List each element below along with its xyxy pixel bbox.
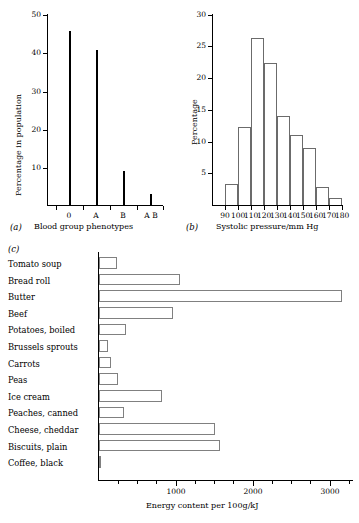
chart-c-bar-tomato-soup (99, 257, 117, 269)
chart-c-bar-beef (99, 307, 173, 319)
chart-b-plot-area (212, 14, 343, 205)
chart-c-xtick-minor (118, 481, 119, 484)
table-row (99, 321, 354, 338)
chart-a-ytick-label: 10 (27, 164, 41, 172)
chart-c-label: Potatoes, boiled (8, 322, 100, 339)
chart-b-bin-90-100 (225, 184, 238, 205)
chart-a-xtick-label: B (114, 212, 132, 220)
chart-c-xtick-minor (291, 481, 292, 484)
chart-a-ytick-label: 40 (27, 49, 41, 57)
chart-b-xtick-label: 90 (218, 212, 232, 220)
chart-c-bar-carrots (99, 357, 111, 369)
chart-b-xtick (316, 206, 317, 210)
chart-c-x-axis-title: Energy content per 100g/kJ (146, 501, 258, 510)
panel-letter-a: (a) (10, 222, 22, 232)
chart-c-label: Coffee, black (8, 455, 100, 472)
chart-a-ytick-label: 50 (27, 11, 41, 19)
chart-c-label: Ice cream (8, 389, 100, 406)
chart-c-xtick-label: 1000 (163, 488, 189, 496)
chart-b-bin-150-160 (303, 148, 316, 205)
chart-c-xtick-minor (214, 481, 215, 484)
chart-b-bin-140-150 (290, 135, 303, 205)
table-row (99, 454, 354, 471)
chart-c-label: Carrots (8, 356, 100, 373)
chart-c-xtick-minor (137, 481, 138, 484)
table-row (99, 272, 354, 289)
chart-a-bar-A (96, 50, 98, 205)
chart-c-category-labels: Tomato soup Bread roll Butter Beef Potat… (8, 256, 100, 472)
chart-a-xtick (110, 206, 111, 210)
chart-b-xtick-label: 130 (270, 212, 284, 220)
chart-c-bar-biscuits-plain (99, 440, 220, 452)
chart-c-label: Bread roll (8, 273, 100, 290)
chart-b-ytick-label: 20 (192, 74, 206, 82)
chart-a-plot-area (47, 14, 163, 205)
chart-a-xtick (137, 206, 138, 210)
chart-a-xtick-label: 0 (60, 212, 78, 220)
chart-c-xtick-minor (195, 481, 196, 484)
chart-c-xtick-major (330, 481, 331, 486)
table-row (99, 371, 354, 388)
table-row (99, 288, 354, 305)
chart-b-xtick (264, 206, 265, 210)
chart-c-bar-bread-roll (99, 274, 180, 286)
chart-a-bar-0 (69, 31, 71, 205)
chart-a-bar-B (123, 171, 125, 205)
chart-energy-content-foods: (c) Tomato soup Bread roll Butter Beef P… (0, 244, 359, 523)
chart-c-label: Butter (8, 289, 100, 306)
chart-c-bar-cheese-cheddar (99, 423, 215, 435)
chart-b-xtick-label: 100 (231, 212, 245, 220)
chart-b-xtick (251, 206, 252, 210)
chart-a-bar-AB (150, 194, 152, 206)
chart-c-label: Biscuits, plain (8, 439, 100, 456)
chart-a-xtick (83, 206, 84, 210)
chart-b-xtick (225, 206, 226, 210)
chart-c-bar-peaches-canned (99, 407, 124, 419)
table-row (99, 255, 354, 272)
chart-a-xtick (56, 206, 57, 210)
chart-c-xtick-minor (349, 481, 350, 484)
chart-c-label: Brussels sprouts (8, 339, 100, 356)
chart-c-bar-coffee-black (99, 456, 101, 468)
chart-b-xtick (342, 206, 343, 210)
chart-b-bin-130-140 (277, 116, 290, 205)
chart-b-xtick-label: 160 (309, 212, 323, 220)
chart-c-bar-potatoes-boiled (99, 324, 126, 336)
chart-c-xtick-minor (233, 481, 234, 484)
chart-b-bin-170-180 (329, 198, 342, 205)
table-row (99, 338, 354, 355)
chart-c-bar-ice-cream (99, 390, 162, 402)
chart-a-xtick (163, 206, 164, 210)
chart-b-xtick-label: 180 (335, 212, 349, 220)
chart-a-xtick-label: A B (140, 212, 162, 220)
chart-a-y-axis-title: Percentage in population (14, 94, 23, 196)
table-row (99, 404, 354, 421)
chart-b-xtick (329, 206, 330, 210)
chart-b-xtick (303, 206, 304, 210)
chart-b-xtick-label: 170 (322, 212, 336, 220)
panel-letter-b: (b) (186, 222, 198, 232)
chart-c-xtick-major (253, 481, 254, 486)
table-row (99, 305, 354, 322)
table-row (99, 421, 354, 438)
chart-c-xtick-minor (310, 481, 311, 484)
chart-a-ytick-label: 20 (27, 126, 41, 134)
chart-b-ytick-label: 30 (192, 11, 206, 19)
chart-b-ytick-label: 5 (192, 169, 206, 177)
panel-letter-c: (c) (8, 244, 19, 254)
chart-a-xtick-label: A (87, 212, 105, 220)
chart-c-label: Cheese, cheddar (8, 422, 100, 439)
chart-c-xtick-label: 2000 (240, 488, 266, 496)
chart-b-xtick-label: 120 (257, 212, 271, 220)
chart-a-x-axis-title: Blood group phenotypes (34, 222, 133, 231)
chart-b-x-axis-title: Systolic pressure/mm Hg (216, 222, 318, 231)
chart-b-xtick (238, 206, 239, 210)
table-row (99, 355, 354, 372)
chart-c-xtick-minor (272, 481, 273, 484)
chart-systolic-pressure-histogram: Percentage 5 10 15 20 25 30 90 100 110 1… (180, 0, 359, 240)
chart-c-label: Tomato soup (8, 256, 100, 273)
chart-b-bin-120-130 (264, 63, 277, 205)
chart-b-xtick-label: 150 (296, 212, 310, 220)
table-row (99, 388, 354, 405)
chart-c-bar-brussels-sprouts (99, 340, 108, 352)
